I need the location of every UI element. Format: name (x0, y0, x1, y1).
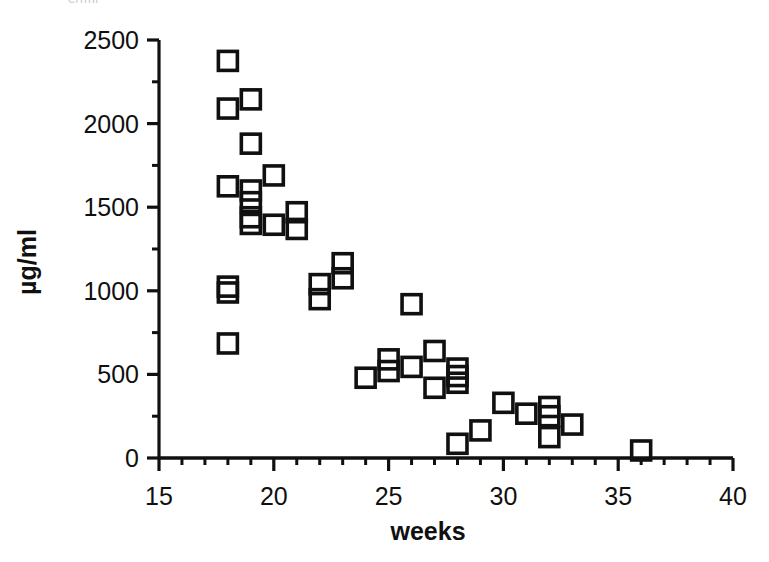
y-axis-tick-label: 0 (125, 444, 139, 472)
data-point-marker (241, 214, 260, 233)
y-axis-title-text: µg/ml (13, 229, 41, 295)
data-point-marker (379, 362, 398, 381)
data-point-marker (356, 368, 375, 387)
x-axis-tick-label: 20 (260, 482, 288, 510)
y-axis-tick-label: 2500 (83, 26, 139, 54)
y-axis-tick-label: 1500 (83, 193, 139, 221)
data-point-marker (218, 334, 237, 353)
data-point-marker (402, 357, 421, 376)
data-point-marker (448, 367, 467, 386)
data-point-marker (425, 378, 444, 397)
data-point-marker (218, 277, 237, 296)
data-point-marker (241, 134, 260, 153)
x-axis: 152025303540 (145, 458, 747, 510)
data-point-marker (218, 283, 237, 302)
data-point-marker (494, 393, 513, 412)
data-point-marker (402, 295, 421, 314)
data-point-marker (471, 421, 490, 440)
data-point-marker (563, 415, 582, 434)
y-axis-title: µg/ml (13, 229, 41, 295)
y-axis-tick-label: 1000 (83, 277, 139, 305)
data-point-marker (517, 404, 536, 423)
data-point-marker (448, 373, 467, 392)
y-axis: 05001000150020002500 (83, 26, 159, 472)
data-markers (218, 51, 650, 460)
x-axis-tick-label: 35 (604, 482, 632, 510)
data-point-marker (264, 166, 283, 185)
data-point-marker (241, 181, 260, 200)
x-axis-tick-label: 40 (719, 482, 747, 510)
data-point-marker (264, 215, 283, 234)
data-point-marker (379, 350, 398, 369)
plot-canvas: 05001000150020002500 152025303540 µg/ml … (0, 0, 769, 562)
data-point-marker (448, 359, 467, 378)
x-axis-tick-label: 15 (145, 482, 173, 510)
data-point-marker (218, 177, 237, 196)
x-axis-title: weeks (389, 517, 465, 545)
data-point-marker (218, 51, 237, 70)
data-point-marker (540, 428, 559, 447)
data-point-marker (218, 99, 237, 118)
x-axis-tick-label: 25 (375, 482, 403, 510)
data-point-marker (425, 341, 444, 360)
scatter-plot-figure: e/fml 05001000150020002500 152025303540 … (0, 0, 769, 562)
x-axis-title-text: weeks (389, 517, 465, 545)
data-point-marker (448, 434, 467, 453)
y-axis-tick-label: 2000 (83, 110, 139, 138)
x-axis-tick-label: 30 (489, 482, 517, 510)
y-axis-tick-label: 500 (97, 360, 139, 388)
data-point-marker (241, 90, 260, 109)
